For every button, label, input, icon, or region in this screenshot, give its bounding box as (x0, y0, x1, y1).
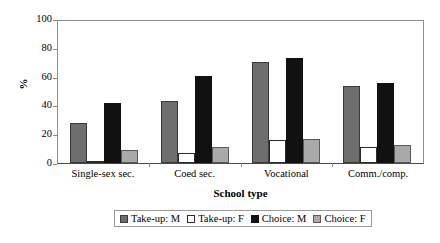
y-axis-tick-label: 20 (26, 129, 52, 139)
legend-item: Take-up: M (120, 213, 180, 224)
y-axis-tick-mark (53, 164, 57, 165)
legend-swatch-icon (187, 215, 195, 223)
bar (303, 139, 320, 163)
y-axis-tick-label: 40 (26, 100, 52, 110)
plot-area (57, 20, 424, 164)
bar (343, 86, 360, 163)
x-axis-tick-labels: Single-sex sec.Coed sec.VocationalComm./… (57, 168, 424, 179)
x-axis-tick-label: Comm./comp. (332, 168, 424, 179)
x-axis-tick-label: Coed sec. (149, 168, 241, 179)
bar-groups (58, 21, 423, 163)
bar (212, 147, 229, 163)
legend-item: Choice: M (251, 213, 307, 224)
legend-swatch-icon (251, 215, 259, 223)
legend-label: Choice: M (262, 213, 307, 224)
bar-group (58, 21, 149, 163)
bar (161, 101, 178, 163)
legend-swatch-icon (120, 215, 128, 223)
bar (269, 140, 286, 163)
legend-label: Take-up: M (131, 213, 180, 224)
bar (121, 150, 138, 163)
legend-item: Take-up: F (187, 213, 244, 224)
x-axis-tick-mark (149, 163, 150, 167)
bar (360, 147, 377, 163)
bar (252, 62, 269, 163)
bar (394, 145, 411, 163)
bar (195, 76, 212, 163)
bar (87, 161, 104, 163)
legend-label: Choice: F (324, 213, 365, 224)
bar (377, 83, 394, 163)
x-axis-tick-mark (332, 163, 333, 167)
x-axis-tick-label: Vocational (241, 168, 333, 179)
legend-item: Choice: F (313, 213, 365, 224)
y-axis-tick-label: 100 (26, 14, 52, 24)
legend-label: Take-up: F (198, 213, 244, 224)
bar-group (149, 21, 240, 163)
bar (286, 58, 303, 163)
bar-group (241, 21, 332, 163)
legend-swatch-icon (313, 215, 321, 223)
bar (178, 153, 195, 163)
x-axis-tick-mark (241, 163, 242, 167)
x-axis-title: School type (57, 187, 424, 199)
x-axis-tick-label: Single-sex sec. (57, 168, 149, 179)
bar-chart-figure: % 020406080100 Single-sex sec.Coed sec.V… (0, 0, 440, 243)
bar (104, 103, 121, 163)
y-axis-tick-label: 80 (26, 43, 52, 53)
y-axis-tick-label: 60 (26, 72, 52, 82)
bar (70, 123, 87, 163)
chart-legend: Take-up: MTake-up: FChoice: MChoice: F (114, 210, 372, 227)
bar-group (332, 21, 423, 163)
y-axis-tick-label: 0 (26, 158, 52, 168)
